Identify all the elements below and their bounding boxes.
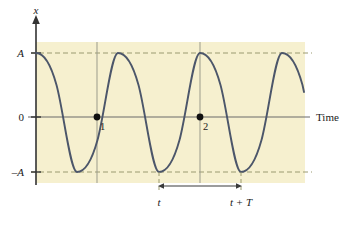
y-axis-arrowhead <box>32 15 40 24</box>
y-axis-label: x <box>33 4 39 16</box>
point-1-marker <box>94 114 101 121</box>
x-axis-label: Time <box>316 111 339 123</box>
point-2-label: 2 <box>203 121 208 132</box>
period-start-label: t <box>157 196 161 208</box>
point-1-label: 1 <box>100 121 105 132</box>
figure-container: x Time A 0 –A 1 2 t t + T <box>0 0 345 225</box>
period-end-label: t + T <box>230 196 253 208</box>
tick-a-label: A <box>16 47 24 59</box>
point-2-marker <box>197 114 204 121</box>
tick-neg-a-label: –A <box>11 166 25 178</box>
tick-zero-label: 0 <box>19 111 25 123</box>
